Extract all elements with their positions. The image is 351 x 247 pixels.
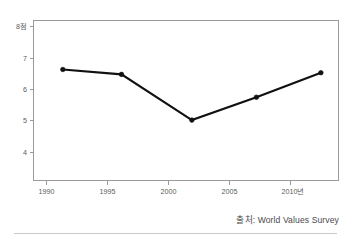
y-tick-label-6: 6 [23,85,27,94]
x-tick-label-2005: 2005 [222,187,238,196]
y-tick-label-7: 7 [23,54,27,63]
data-point [119,72,124,77]
plot-area-frame [34,21,339,181]
data-point [254,95,259,100]
series-markers [61,67,324,122]
x-tick-label-1990: 1990 [39,187,55,196]
data-point [190,118,195,123]
y-axis-ticks [30,27,34,153]
x-axis-ticks [47,181,291,185]
x-axis-tick-labels: 1990 1995 2000 2005 2010년 [39,187,305,196]
series-line-path [63,69,321,120]
data-point [319,70,324,75]
x-tick-label-2000: 2000 [161,187,177,196]
data-point [61,67,66,72]
y-tick-label-5: 5 [23,116,27,125]
y-tick-label-4: 4 [23,148,27,157]
line-chart-canvas: 8점 7 6 5 4 1990 1995 2000 2005 2010년 [0,0,351,247]
chart-figure: 8점 7 6 5 4 1990 1995 2000 2005 2010년 출처: [0,0,351,247]
x-tick-label-1995: 1995 [100,187,116,196]
x-tick-label-2010: 2010년 [282,187,305,196]
y-tick-label-8: 8점 [16,22,27,31]
source-note: 출처: World Values Survey [236,213,339,225]
y-axis-tick-labels: 8점 7 6 5 4 [16,22,27,157]
